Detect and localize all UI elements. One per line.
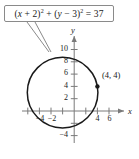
y-tick-label-2: 2 <box>50 93 68 102</box>
circle-graph-figure: (x + 2)2 + (y − 3)2 = 37 y x 10 8 6 4 2 … <box>0 0 139 159</box>
x-tick-label-4: 4 <box>92 114 103 123</box>
x-tick-label-neg2: −2 <box>45 114 59 123</box>
equation-text: (x + 2)2 + (y − 3)2 = 37 <box>15 9 104 19</box>
x-axis-label: x <box>128 106 132 116</box>
point-marker-4-4 <box>95 84 99 88</box>
y-tick-label-10: 10 <box>50 44 68 53</box>
point-annotation-label: (4, 4) <box>102 70 120 80</box>
y-tick-label-4: 4 <box>50 81 68 90</box>
x-tick-label-6: 6 <box>104 114 115 123</box>
callout-leader-lines <box>27 22 51 52</box>
y-tick-label-neg4: −4 <box>48 130 68 139</box>
y-tick-label-8: 8 <box>50 56 68 65</box>
y-axis-label: y <box>71 25 75 35</box>
y-tick-label-6: 6 <box>50 68 68 77</box>
equation-callout-box: (x + 2)2 + (y − 3)2 = 37 <box>4 5 114 22</box>
